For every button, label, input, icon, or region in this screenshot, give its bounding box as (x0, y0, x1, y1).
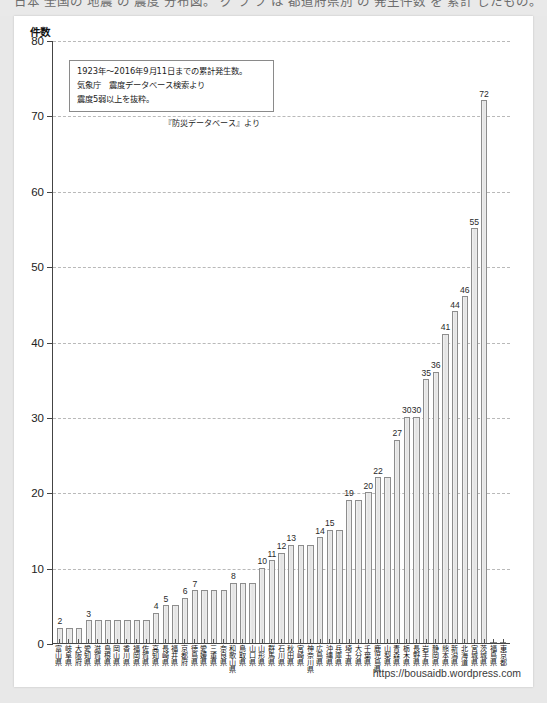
x-axis-category-label: 岡山県 (113, 645, 120, 690)
bar (172, 605, 178, 643)
bar (481, 100, 487, 643)
bar-value-label: 15 (325, 519, 335, 528)
bar-value-label: 35 (421, 369, 431, 378)
x-axis-slot: 神奈川県 (305, 644, 315, 690)
bar (404, 417, 410, 643)
bar (375, 477, 381, 643)
bar-value-label: 30 (402, 406, 412, 415)
x-tick (281, 639, 282, 644)
bar (278, 553, 284, 643)
x-tick (271, 639, 272, 644)
x-tick (503, 639, 504, 644)
x-axis-category-label: 兵庫県 (335, 645, 342, 690)
bar (452, 311, 458, 643)
x-axis-slot: 京都府 (180, 644, 190, 690)
x-axis-category-label: 鳥取県 (239, 645, 246, 690)
y-axis-tick-label: 30 (31, 412, 44, 424)
x-axis-slot: 兵庫県 (334, 644, 344, 690)
x-axis-slot: 千葉県 (363, 644, 373, 690)
bar (384, 477, 390, 643)
bar-value-label: 46 (460, 286, 470, 295)
bar-slot (142, 41, 152, 643)
x-tick (155, 639, 156, 644)
bar-slot (296, 41, 306, 643)
bar-slot (498, 41, 508, 643)
bar-slot (103, 41, 113, 643)
x-axis-category-label: 埼玉県 (345, 645, 352, 690)
x-tick (493, 639, 494, 644)
x-tick (310, 639, 311, 644)
bar-slot: 35 (421, 41, 431, 643)
x-axis-slot: 福井県 (170, 644, 180, 690)
x-tick (204, 639, 205, 644)
bar-value-label: 2 (57, 617, 62, 626)
annotation-line-1: 1923年～2016年9月11日までの累計発生数。 (77, 66, 266, 77)
bar (413, 417, 419, 643)
x-axis-slot: 石川県 (276, 644, 286, 690)
x-axis-slot: 富山県 (54, 644, 64, 690)
x-tick (377, 639, 378, 644)
x-axis-slot: 愛媛県 (199, 644, 209, 690)
bar-value-label: 41 (441, 323, 451, 332)
bar (394, 440, 400, 644)
x-axis-slot: 滋賀県 (93, 644, 103, 690)
annotation-line-2: 気象庁 震度データベース検索より (77, 80, 266, 91)
bar-slot (74, 41, 84, 643)
y-axis-tick-label: 60 (31, 186, 44, 198)
y-axis-tick-label: 70 (31, 110, 44, 122)
bar (259, 568, 265, 643)
bar-value-label: 13 (286, 534, 296, 543)
bar-slot: 27 (392, 41, 402, 643)
x-axis-category-label: 広島県 (316, 645, 323, 690)
bar-value-label: 72 (479, 90, 489, 99)
x-tick (97, 639, 98, 644)
bar-slot: 6 (180, 41, 190, 643)
x-tick (78, 639, 79, 644)
bar-chart: 件数 01020304050607080 2345678101112131415… (14, 16, 533, 687)
footer-url: https://bousaidb.wordpress.com (373, 667, 521, 679)
bar (433, 372, 439, 643)
x-tick (300, 639, 301, 644)
x-tick (184, 639, 185, 644)
y-axis-tick-label: 0 (38, 638, 44, 650)
x-axis-slot: 大分県 (353, 644, 363, 690)
bar-slot (113, 41, 123, 643)
x-axis-category-label: 長崎県 (161, 645, 168, 690)
x-tick (291, 639, 292, 644)
x-tick (107, 639, 108, 644)
y-axis-tick-label: 80 (31, 35, 44, 47)
bar-slot (238, 41, 248, 643)
bar (346, 500, 352, 643)
bar-slot (122, 41, 132, 643)
bar-slot: 10 (257, 41, 267, 643)
bar-value-label: 22 (373, 467, 383, 476)
x-axis-slot: 沖縄県 (324, 644, 334, 690)
x-axis-slot: 岐阜県 (64, 644, 74, 690)
bar-slot (132, 41, 142, 643)
bar-slot: 4 (151, 41, 161, 643)
bar-slot (306, 41, 316, 643)
bar-value-label: 12 (277, 542, 287, 551)
x-axis-category-label: 岐阜県 (65, 645, 72, 690)
bar-value-label: 19 (344, 489, 354, 498)
x-axis-slot: 長崎県 (160, 644, 170, 690)
bar-value-label: 8 (231, 572, 236, 581)
bar-series: 2345678101112131415192022273030353641444… (53, 41, 510, 643)
x-axis-slot: 鳥取県 (237, 644, 247, 690)
x-tick (117, 639, 118, 644)
bar-slot: 41 (441, 41, 451, 643)
x-tick (88, 639, 89, 644)
x-axis-category-label: 山口県 (248, 645, 255, 690)
bar-slot (354, 41, 364, 643)
bar-slot: 15 (325, 41, 335, 643)
bar-slot (200, 41, 210, 643)
x-axis-category-label: 千葉県 (364, 645, 371, 690)
x-axis-category-label: 愛知県 (84, 645, 91, 690)
bar (211, 590, 217, 643)
x-tick (474, 639, 475, 644)
bar (471, 228, 477, 643)
bar (221, 590, 227, 643)
x-axis-category-label: 高知県 (152, 645, 159, 690)
bar-slot (248, 41, 258, 643)
x-axis-category-label: 石川県 (277, 645, 284, 690)
